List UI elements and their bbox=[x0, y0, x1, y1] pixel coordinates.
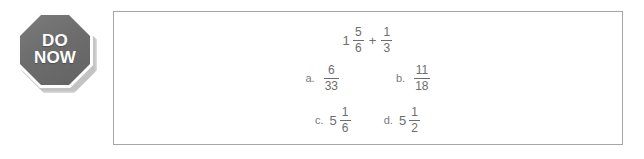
answer-choice-d[interactable]: d. 5 1 2 bbox=[384, 106, 421, 134]
fraction-numerator: 6 bbox=[327, 64, 336, 78]
problem-box: 1 5 6 + 1 3 a. 6 33 b. bbox=[113, 11, 623, 145]
expression-fraction-2: 1 3 bbox=[380, 26, 393, 54]
answer-choice-c[interactable]: c. 5 1 6 bbox=[315, 106, 352, 134]
choice-fraction: 6 33 bbox=[323, 64, 340, 92]
fraction-numerator: 1 bbox=[383, 26, 392, 40]
do-now-sign: DO NOW bbox=[17, 12, 97, 92]
fraction-denominator: 6 bbox=[341, 121, 350, 135]
answer-choice-b[interactable]: b. 11 18 bbox=[396, 64, 431, 92]
choice-fraction: 11 18 bbox=[413, 64, 430, 92]
problem-expression: 1 5 6 + 1 3 bbox=[343, 26, 394, 54]
sign-text: DO NOW bbox=[20, 15, 90, 85]
choice-fraction: 1 2 bbox=[408, 106, 421, 134]
fraction-numerator: 11 bbox=[415, 64, 429, 78]
expression-whole-number: 1 bbox=[343, 33, 352, 48]
expression-row: 1 5 6 + 1 3 bbox=[114, 26, 622, 54]
sign-text-line-2: NOW bbox=[34, 50, 76, 67]
choice-label: d. bbox=[384, 114, 399, 126]
choice-label: c. bbox=[315, 114, 330, 126]
answer-choice-a[interactable]: a. 6 33 bbox=[305, 64, 340, 92]
fraction-numerator: 1 bbox=[410, 106, 419, 120]
fraction-denominator: 2 bbox=[410, 121, 419, 135]
choice-fraction: 1 6 bbox=[339, 106, 352, 134]
fraction-numerator: 1 bbox=[341, 106, 350, 120]
choice-whole-number: 5 bbox=[329, 113, 338, 128]
fraction-denominator: 6 bbox=[354, 41, 363, 55]
choice-label: b. bbox=[396, 72, 411, 84]
fraction-numerator: 5 bbox=[354, 26, 363, 40]
expression-fraction-1: 5 6 bbox=[352, 26, 365, 54]
fraction-denominator: 33 bbox=[324, 79, 339, 93]
expression-operator: + bbox=[365, 33, 381, 48]
choice-label: a. bbox=[305, 72, 320, 84]
fraction-denominator: 3 bbox=[383, 41, 392, 55]
choices-row-top: a. 6 33 b. 11 18 bbox=[114, 64, 622, 92]
choice-whole-number: 5 bbox=[399, 113, 408, 128]
choices-row-bottom: c. 5 1 6 d. 5 1 2 bbox=[114, 106, 622, 134]
fraction-denominator: 18 bbox=[414, 79, 429, 93]
